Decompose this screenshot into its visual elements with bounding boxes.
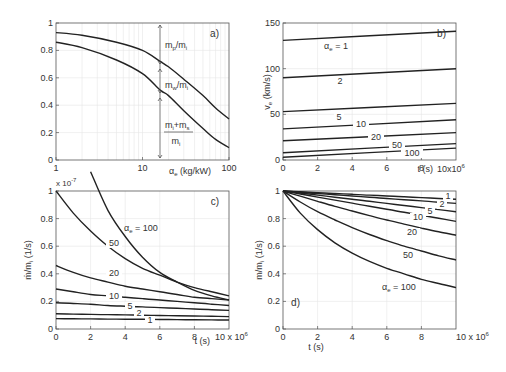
curve-label: 50 <box>392 140 402 150</box>
x-tick-label: 0 <box>280 332 285 342</box>
series-line <box>56 319 229 320</box>
y-tick-label: 0 <box>48 324 53 334</box>
x-tick-label: 6 <box>384 332 389 342</box>
axes-box <box>56 191 229 329</box>
panel-a: 11010000.20.40.60.81a)mp/mimw/mimi+msmiα… <box>40 18 236 177</box>
x-axis-label: αe (kg/kW) <box>169 166 211 177</box>
panel-label: b) <box>437 28 446 39</box>
x-tick-label: 1 <box>53 163 58 173</box>
curve-label: 5 <box>127 301 132 311</box>
label-ae-100: αe = 100 <box>382 282 416 293</box>
curve-label: 2 <box>439 199 444 209</box>
y-tick-label: 1 <box>48 186 53 196</box>
y-tick-label: 0.4 <box>40 100 53 110</box>
x-tick-label: 0 <box>53 332 58 342</box>
curve-label: 50 <box>403 250 413 260</box>
y-tick-label: 50 <box>270 109 280 119</box>
y-tick-label: 100 <box>265 64 280 74</box>
series-line <box>283 120 456 129</box>
annotation-mi-ms: mi+ms <box>165 120 190 131</box>
curve-label: 1 <box>445 191 450 201</box>
y-tick-label: 0.4 <box>267 269 280 279</box>
y-axis-label: m/mi (1/s) <box>254 240 265 279</box>
x-tick-label: 4 <box>123 332 128 342</box>
x-axis-label: t (s) <box>195 336 211 346</box>
y-tick-label: 0.6 <box>40 241 53 251</box>
series-line <box>56 191 229 296</box>
x-tick-label: 2 <box>315 163 320 173</box>
curve-label: 20 <box>407 227 417 237</box>
curve-label: 1 <box>147 315 152 325</box>
x-tick-label: 100 <box>221 163 236 173</box>
grid <box>56 191 229 329</box>
x-tick-label: 8 <box>419 332 424 342</box>
series-line <box>283 69 456 78</box>
panel-d: 0246800.20.40.60.81d)m/mi (1/s)125102050… <box>254 186 490 352</box>
panel-label: c) <box>211 196 219 207</box>
grid <box>56 23 229 160</box>
x-multiplier: 10x106 <box>437 163 466 174</box>
y-axis-label: ṁ/mi (1/s) <box>23 240 34 279</box>
x-axis-label: t (s) <box>308 342 324 352</box>
curve-label: 10 <box>356 119 366 129</box>
y-tick-label: 0 <box>275 324 280 334</box>
y-tick-label: 0 <box>275 155 280 165</box>
curve-label: 10 <box>413 212 423 222</box>
y-tick-label: 0 <box>48 155 53 165</box>
y-tick-label: 0.2 <box>267 296 280 306</box>
series-line <box>56 266 229 301</box>
panel-b: 02468050100150b)ve (km/s)αe = 1251020501… <box>262 18 466 174</box>
x-tick-label: 2 <box>315 332 320 342</box>
x-tick-label: 0 <box>280 163 285 173</box>
curve-label: 20 <box>371 132 381 142</box>
curve-label: 20 <box>109 268 119 278</box>
y-exponent: x 10-7 <box>56 177 77 188</box>
y-tick-label: 0.6 <box>40 73 53 83</box>
y-tick-label: 0.8 <box>267 214 280 224</box>
panel-label: a) <box>210 28 219 39</box>
curve-label: 10 <box>109 291 119 301</box>
x-tick-label: 6 <box>157 332 162 342</box>
y-tick-label: 0.4 <box>40 269 53 279</box>
figure: 11010000.20.40.60.81a)mp/mimw/mimi+msmiα… <box>0 0 506 372</box>
curve-label: 2 <box>337 76 342 86</box>
y-tick-label: 0.6 <box>267 241 280 251</box>
annotation-mp: mp/mi <box>165 40 187 51</box>
label-ae-100: αe = 100 <box>124 223 158 234</box>
x-multiplier: 10 x 106 <box>456 331 490 342</box>
curve-label: 5 <box>427 206 432 216</box>
y-tick-label: 0.2 <box>40 296 53 306</box>
x-axis-label: t (s) <box>418 164 434 174</box>
x-tick-label: 4 <box>350 332 355 342</box>
x-tick-label: 2 <box>88 332 93 342</box>
curve-label: 2 <box>136 308 141 318</box>
panel-c: 0246800.20.40.60.81c)x 10-7ṁ/mi (1/s)αe … <box>23 172 249 346</box>
y-tick-label: 150 <box>265 18 280 28</box>
panel-label: d) <box>291 297 300 308</box>
x-tick-label: 10 <box>137 163 147 173</box>
y-axis-label: ve (km/s) <box>262 74 273 109</box>
x-multiplier: 10 x 106 <box>215 331 249 342</box>
label-ae-1: αe = 1 <box>324 41 348 52</box>
curve-label: 50 <box>109 238 119 248</box>
series-line <box>56 289 229 306</box>
series-line <box>283 103 456 111</box>
y-tick-label: 0.8 <box>40 214 53 224</box>
y-tick-label: 1 <box>48 18 53 28</box>
x-tick-label: 4 <box>350 163 355 173</box>
annotation-mw: mw/mi <box>165 80 188 91</box>
series-line <box>283 144 456 153</box>
curve-label: 5 <box>336 112 341 122</box>
curve-label: 100 <box>404 148 419 158</box>
y-tick-label: 1 <box>275 186 280 196</box>
y-tick-label: 0.8 <box>40 45 53 55</box>
y-tick-label: 0.2 <box>40 128 53 138</box>
x-tick-label: 6 <box>384 163 389 173</box>
series-line <box>283 31 456 40</box>
annotation-mi: mi <box>172 136 181 147</box>
series-line <box>283 148 456 157</box>
